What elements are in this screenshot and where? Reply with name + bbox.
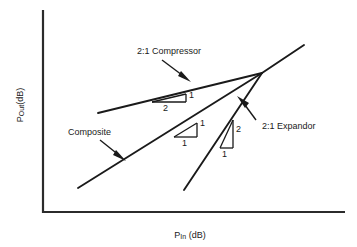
- compressor-rise-label: 1: [189, 90, 194, 100]
- expandor-leader-arrow: [237, 96, 256, 120]
- composite-rise-label: 1: [200, 118, 205, 128]
- compressor-line-segment: [98, 73, 262, 113]
- y-axis-label-unit: (dB): [15, 88, 25, 105]
- composite-run-label: 1: [182, 138, 187, 148]
- compressor-leader-arrow: [162, 60, 191, 82]
- expandor-curve: [184, 73, 262, 190]
- upper-unity-extension: [262, 45, 304, 73]
- y-axis-label: POut(dB): [9, 65, 27, 145]
- x-axis-label: PIn (dB): [145, 224, 235, 242]
- expandor-line-segment: [184, 73, 262, 190]
- composite-annotation-label: Composite: [68, 128, 111, 137]
- expandor-annotation-label: 2:1 Expandor: [262, 122, 316, 131]
- composite-leader-arrow: [100, 140, 126, 161]
- expandor-run-label: 1: [222, 149, 227, 159]
- y-axis-label-main: P: [15, 116, 25, 122]
- compressor-run-label: 2: [163, 103, 168, 113]
- y-axis-label-sub: Out: [18, 105, 25, 116]
- expandor-rise-label: 2: [236, 124, 241, 134]
- x-axis-label-unit: (dB): [186, 230, 206, 240]
- compressor-annotation-label: 2:1 Compressor: [137, 47, 201, 56]
- compressor-expandor-transfer-diagram: POut(dB) PIn (dB) 2:1 Compressor 2:1 Exp…: [0, 0, 357, 247]
